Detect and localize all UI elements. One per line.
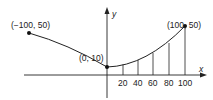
y-axis-label: y xyxy=(111,9,117,19)
point-left-label: (−100, 50) xyxy=(11,20,50,30)
x-axis-label: x xyxy=(198,64,204,74)
point-right-label: (100, 50) xyxy=(167,20,201,30)
point-vertex xyxy=(105,65,109,69)
parabola-diagram: (−100, 50) (0, 10) (100, 50) y x 20 40 6… xyxy=(0,0,213,100)
point-left xyxy=(27,31,31,35)
tick-label-80: 80 xyxy=(164,78,174,88)
y-axis-arrow-icon xyxy=(105,7,110,14)
tick-label-60: 60 xyxy=(148,78,158,88)
tick-label-100: 100 xyxy=(178,78,192,88)
point-vertex-label: (0, 10) xyxy=(79,53,104,63)
tick-label-20: 20 xyxy=(118,78,128,88)
tick-label-40: 40 xyxy=(133,78,143,88)
